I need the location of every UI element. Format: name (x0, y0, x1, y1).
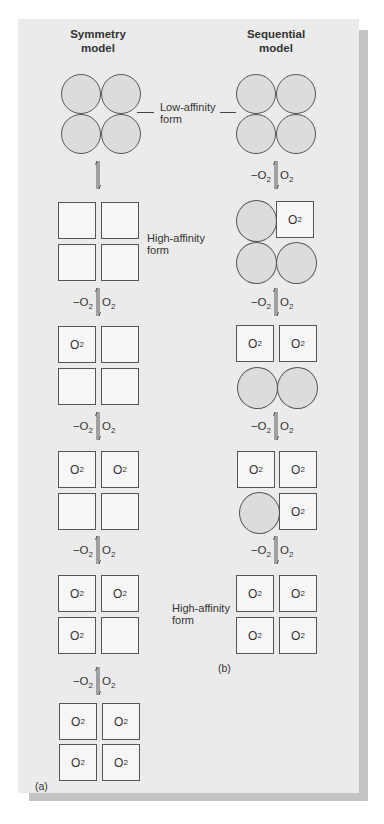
equilibrium-arrow-icon (273, 160, 279, 190)
subunit-square-o2: O2 (279, 493, 317, 530)
add-o2-label: O2 (102, 675, 115, 690)
subunit-square (58, 368, 96, 405)
subunit-square-o2: O2 (58, 326, 96, 363)
subunit-square-o2: O2 (279, 617, 317, 654)
label-line: form (147, 244, 205, 256)
subunit-square (101, 326, 139, 363)
remove-o2-label: −O2 (53, 675, 93, 690)
subunit-square-o2: O2 (276, 201, 314, 238)
equilibrium-arrow-icon (95, 287, 101, 317)
subunit-square (58, 244, 96, 281)
subunit-square-o2: O2 (279, 325, 317, 362)
subunit-square (101, 244, 139, 281)
subunit-square-o2: O2 (236, 575, 274, 612)
leader-line-right (220, 112, 236, 113)
add-o2-label: O2 (102, 296, 115, 311)
label-line: form (160, 113, 215, 125)
subunit-circle (101, 74, 141, 114)
subunit-square (101, 617, 139, 654)
equilibrium-arrow-icon (95, 411, 101, 441)
subunit-square-o2: O2 (279, 451, 317, 488)
low-affinity-label: Low-affinity form (160, 101, 215, 125)
subunit-square (101, 493, 139, 530)
add-o2-label: O2 (280, 169, 293, 184)
equilibrium-arrow-icon (273, 411, 279, 441)
symmetry-model-title: Symmetry model (38, 27, 158, 55)
equilibrium-arrow-icon (95, 535, 101, 565)
subunit-square-o2: O2 (279, 575, 317, 612)
subunit-circle (237, 367, 278, 409)
sequential-model-title: Sequential model (216, 27, 336, 55)
subunit-square-o2: O2 (236, 617, 274, 654)
add-o2-label: O2 (280, 544, 293, 559)
leader-line-left (137, 112, 154, 113)
subunit-circle (101, 114, 141, 154)
subunit-square-o2: O2 (102, 744, 140, 781)
label-line: High-affinity (172, 602, 230, 614)
symmetry-high-affinity-label: High-affinity form (147, 232, 205, 256)
label-line: Low-affinity (160, 101, 215, 113)
subunit-circle (236, 114, 276, 154)
subunit-square-o2: O2 (101, 575, 139, 612)
subunit-square (58, 202, 96, 239)
title-line: model (216, 41, 336, 55)
remove-o2-label: −O2 (231, 420, 271, 435)
subunit-circle (276, 114, 316, 154)
equilibrium-arrow-icon (95, 666, 101, 696)
subunit-circle (276, 242, 317, 284)
add-o2-label: O2 (280, 420, 293, 435)
remove-o2-label: −O2 (53, 296, 93, 311)
label-line: High-affinity (147, 232, 205, 244)
subunit-square-o2: O2 (59, 744, 97, 781)
subunit-circle (61, 74, 101, 114)
remove-o2-label: −O2 (231, 296, 271, 311)
subunit-circle (276, 74, 316, 114)
sequential-high-affinity-label: High-affinity form (172, 602, 230, 626)
add-o2-label: O2 (102, 420, 115, 435)
subunit-circle (236, 200, 277, 242)
caption-b: (b) (218, 662, 231, 674)
remove-o2-label: −O2 (231, 169, 271, 184)
remove-o2-label: −O2 (53, 544, 93, 559)
title-line: model (38, 41, 158, 55)
subunit-square-o2: O2 (101, 451, 139, 488)
subunit-circle (239, 492, 280, 534)
subunit-square-o2: O2 (58, 451, 96, 488)
remove-o2-label: −O2 (53, 420, 93, 435)
subunit-square (101, 202, 139, 239)
subunit-square-o2: O2 (236, 325, 274, 362)
add-o2-label: O2 (102, 544, 115, 559)
add-o2-label: O2 (280, 296, 293, 311)
equilibrium-arrow-icon (273, 287, 279, 317)
subunit-square-o2: O2 (58, 575, 96, 612)
subunit-circle (236, 74, 276, 114)
title-line: Symmetry (38, 27, 158, 41)
equilibrium-arrow-icon (273, 535, 279, 565)
subunit-square-o2: O2 (59, 703, 97, 740)
subunit-square (101, 368, 139, 405)
equilibrium-arrow-icon (95, 160, 101, 190)
title-line: Sequential (216, 27, 336, 41)
caption-a: (a) (35, 780, 48, 792)
subunit-square-o2: O2 (237, 451, 275, 488)
subunit-circle (277, 367, 318, 409)
subunit-square (58, 493, 96, 530)
remove-o2-label: −O2 (231, 544, 271, 559)
subunit-square-o2: O2 (58, 617, 96, 654)
subunit-circle (236, 242, 277, 284)
subunit-square-o2: O2 (102, 703, 140, 740)
subunit-circle (61, 114, 101, 154)
label-line: form (172, 614, 230, 626)
